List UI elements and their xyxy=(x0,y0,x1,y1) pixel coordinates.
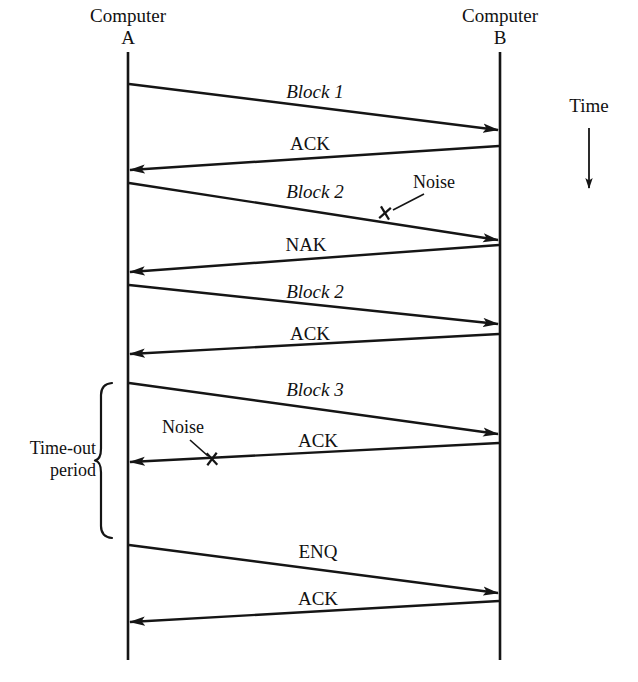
message-label: ENQ xyxy=(298,541,337,562)
message-label: Block 2 xyxy=(286,281,344,302)
noise-leader-line xyxy=(190,440,208,456)
participant-b-subtitle: B xyxy=(494,27,507,48)
messages-group: Block 1ACKBlock 2NAKBlock 2ACKBlock 3ACK… xyxy=(129,81,499,622)
message-label: Block 1 xyxy=(286,81,344,102)
participant-b-title: Computer xyxy=(462,5,539,26)
message-label: ACK xyxy=(298,430,338,451)
participant-headers: Computer A Computer B xyxy=(90,5,539,48)
timeout-label-line1: Time-out xyxy=(30,438,96,458)
message-label: Block 3 xyxy=(286,379,344,400)
noise-label: Noise xyxy=(162,417,204,437)
participant-a-title: Computer xyxy=(90,5,167,26)
message-label: ACK xyxy=(298,588,338,609)
time-axis-label: Time xyxy=(569,95,608,116)
message-label: Block 2 xyxy=(286,181,344,202)
timeout-bracket-group: Time-outperiod xyxy=(30,383,112,538)
diagram-canvas: Computer A Computer B Block 1ACKBlock 2N… xyxy=(0,0,638,682)
noise-x-icon xyxy=(379,206,391,219)
message-label: ACK xyxy=(290,133,330,154)
sequence-diagram: Computer A Computer B Block 1ACKBlock 2N… xyxy=(0,0,638,682)
timeout-label-line2: period xyxy=(50,460,96,480)
message-label: ACK xyxy=(290,323,330,344)
time-axis-group: Time xyxy=(569,95,608,188)
timeout-brace xyxy=(95,383,112,538)
message-label: NAK xyxy=(285,234,326,255)
noise-label: Noise xyxy=(413,172,455,192)
participant-a-subtitle: A xyxy=(121,27,135,48)
noise-leader-line xyxy=(393,194,424,210)
